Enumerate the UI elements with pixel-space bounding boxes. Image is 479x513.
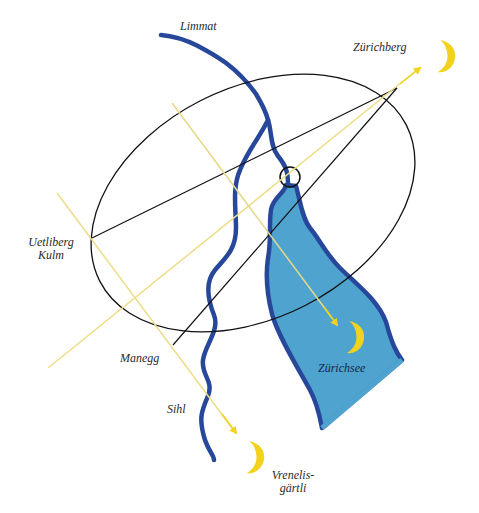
label-vrenelisgaertli: Vrenelis- gärtli: [265, 469, 321, 495]
river-limmat: [161, 35, 288, 184]
moon-zuerichberg-icon: [438, 40, 455, 72]
arrow-vrenelisgaertli: [222, 414, 236, 433]
label-limmat: Limmat: [180, 20, 217, 33]
chord-uetliberg-zuerichberg: [92, 88, 397, 238]
label-uetliberg-kulm: Uetliberg Kulm: [22, 236, 80, 262]
label-vrenelis-line2: gärtli: [265, 482, 321, 495]
sight-line-zuerichsee: [172, 103, 332, 318]
label-zuerichberg: Zürichberg: [353, 41, 407, 54]
lake-zuerichsee: [267, 185, 402, 428]
label-uetliberg-line2: Kulm: [22, 249, 80, 262]
arrow-zuerichberg: [400, 68, 420, 84]
label-manegg: Manegg: [120, 352, 159, 365]
label-zuerichsee: Zürichsee: [318, 362, 365, 375]
moon-vrenelisgaertli-icon: [247, 441, 264, 473]
river-sihl: [201, 120, 268, 460]
label-sihl: Sihl: [167, 403, 186, 416]
sight-line-vrenelisgaertli: [57, 193, 232, 428]
